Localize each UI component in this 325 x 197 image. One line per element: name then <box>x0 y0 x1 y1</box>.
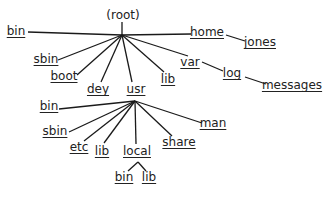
node-local_bin: bin <box>115 171 134 183</box>
node-var: var <box>180 56 199 68</box>
node-jones: jones <box>244 36 276 48</box>
edge-root-home <box>122 34 191 35</box>
node-usr: usr <box>127 83 146 95</box>
node-log: log <box>223 67 241 79</box>
node-home: home <box>190 26 224 38</box>
node-messages: messages <box>262 79 322 91</box>
node-sbin: sbin <box>34 53 59 65</box>
node-local_lib: lib <box>142 171 156 183</box>
edge-var-log <box>202 62 223 71</box>
node-usr_man: man <box>200 117 227 129</box>
edge-usr-usr_bin <box>59 101 135 109</box>
edge-root-bin <box>28 32 122 35</box>
edge-usr-usr_man <box>135 101 202 123</box>
node-lib: lib <box>161 73 175 85</box>
edge-root-boot <box>77 35 122 75</box>
edge-root-var <box>122 35 188 56</box>
node-usr_local: local <box>123 145 151 157</box>
edge-usr-usr_local <box>135 101 136 144</box>
node-usr_share: share <box>162 136 195 148</box>
node-usr_bin: bin <box>40 100 59 112</box>
node-root: (root) <box>106 9 139 21</box>
edge-home-jones <box>226 35 245 41</box>
node-dey: dey <box>87 83 109 95</box>
node-usr_sbin: sbin <box>43 125 68 137</box>
node-boot: boot <box>50 70 77 82</box>
node-usr_etc: etc <box>70 141 89 153</box>
node-usr_lib: lib <box>95 145 109 157</box>
node-bin: bin <box>7 25 26 37</box>
edge-usr-usr_share <box>135 101 172 136</box>
